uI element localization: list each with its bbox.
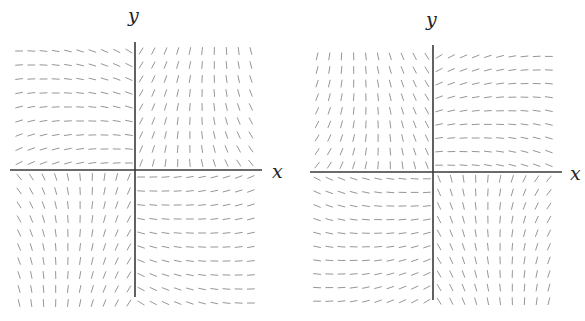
- slope-segment: [365, 148, 366, 155]
- slope-segment: [488, 243, 489, 250]
- slope-segment: [523, 176, 526, 182]
- slope-segment: [536, 244, 538, 251]
- slope-segment: [535, 216, 538, 222]
- slope-segment: [362, 274, 369, 275]
- slope-segment: [497, 97, 504, 98]
- slope-segment: [378, 107, 379, 114]
- slope-segment: [462, 284, 465, 291]
- slope-segment: [535, 203, 538, 209]
- slope-segment: [436, 110, 443, 112]
- slope-segment: [375, 192, 382, 193]
- slope-segment: [328, 135, 331, 141]
- slope-segment: [546, 164, 552, 167]
- slope-segment: [326, 233, 333, 234]
- slope-segment: [399, 219, 406, 220]
- slope-segment: [387, 287, 394, 289]
- slope-segment: [341, 107, 343, 114]
- slope-segment: [413, 67, 416, 73]
- slope-segment: [387, 192, 394, 193]
- slope-segment: [546, 124, 553, 126]
- slope-segment: [509, 138, 516, 139]
- slope-segment: [314, 246, 321, 247]
- slope-segment: [488, 230, 489, 237]
- slope-segment: [387, 246, 394, 247]
- slope-segment: [329, 80, 331, 87]
- slope-segment: [436, 124, 443, 125]
- slope-segment: [411, 233, 418, 234]
- slope-segment: [436, 55, 442, 59]
- slope-segment: [387, 260, 394, 261]
- slope-segment: [375, 206, 382, 207]
- slope-segment: [546, 150, 553, 152]
- slope-segment: [485, 69, 492, 71]
- slope-segment: [460, 96, 467, 98]
- slope-segment: [524, 284, 525, 291]
- slope-segment: [548, 271, 550, 278]
- slope-segment: [497, 138, 504, 139]
- slope-segment: [497, 165, 504, 166]
- slope-segment: [326, 219, 333, 221]
- slope-segment: [315, 149, 319, 155]
- slope-segment: [326, 191, 333, 193]
- slope-segment: [509, 124, 516, 125]
- slope-segment: [328, 121, 331, 127]
- slope-segment: [536, 257, 538, 264]
- slope-segment: [450, 175, 452, 182]
- slope-segment: [314, 219, 321, 221]
- slope-segment: [472, 83, 479, 85]
- slope-segment: [402, 162, 403, 169]
- slope-segment: [353, 162, 355, 169]
- slope-segment: [378, 94, 379, 101]
- slope-segment: [536, 230, 538, 237]
- slope-segment: [521, 137, 528, 138]
- slope-segment: [547, 190, 551, 196]
- slope-segment: [488, 175, 489, 182]
- slope-segment: [438, 203, 441, 209]
- slope-segment: [472, 55, 479, 58]
- slope-segment: [523, 189, 526, 195]
- slope-segment: [450, 298, 453, 304]
- slope-segment: [375, 247, 382, 248]
- slope-segment: [341, 80, 342, 87]
- slope-segment: [497, 83, 504, 84]
- slope-segment: [390, 107, 391, 114]
- slope-segment: [521, 151, 528, 153]
- slope-segment: [353, 107, 354, 114]
- slope-segment: [425, 135, 428, 141]
- slope-segment: [500, 189, 501, 196]
- slope-segment: [402, 121, 404, 128]
- slope-segment: [341, 67, 342, 74]
- slope-segment: [485, 83, 492, 84]
- slope-segment: [363, 300, 370, 302]
- slope-segment: [353, 94, 354, 101]
- slope-segment: [533, 164, 540, 166]
- slope-segment: [521, 70, 528, 71]
- slope-segment: [315, 163, 319, 168]
- slope-segment: [411, 259, 418, 261]
- slope-segment: [448, 69, 454, 72]
- slope-segment: [536, 284, 537, 291]
- slope-segment: [450, 244, 453, 250]
- slope-segment: [375, 300, 382, 302]
- slope-segment: [437, 298, 441, 304]
- slope-segment: [414, 162, 416, 169]
- slope-segment: [375, 273, 382, 274]
- slope-segment: [484, 151, 491, 152]
- slope-segment: [399, 246, 406, 247]
- slope-segment: [366, 135, 367, 142]
- right-y-axis-label: y: [426, 10, 437, 29]
- slope-segment: [350, 233, 357, 234]
- slope-segment: [363, 287, 370, 288]
- slope-segment: [387, 300, 394, 303]
- slope-segment: [462, 244, 464, 251]
- slope-segment: [536, 298, 537, 305]
- slope-segment: [314, 177, 320, 180]
- slope-segment: [377, 67, 378, 74]
- slope-segment: [340, 162, 343, 168]
- slope-segment: [545, 83, 552, 84]
- slope-segment: [375, 260, 382, 261]
- slope-segment: [326, 246, 333, 247]
- slope-segment: [524, 243, 525, 250]
- slope-segment: [463, 189, 464, 196]
- slope-segment: [424, 299, 430, 303]
